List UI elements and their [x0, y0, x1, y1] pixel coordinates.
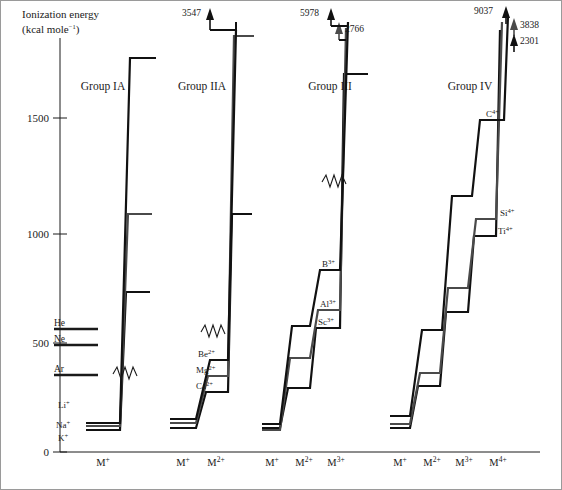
series-label-b: B3+ — [322, 258, 335, 269]
curve-na — [86, 214, 152, 426]
x-label-iii-m2: M2+ — [295, 455, 312, 468]
series-label-al: Al3+ — [320, 298, 336, 309]
curve-ca — [170, 214, 252, 428]
series-label-na: Na+ — [56, 419, 71, 430]
reference-label-ar: Ar — [54, 364, 65, 374]
axis-break-squiggle-ia — [113, 367, 137, 379]
series-label-li: Li+ — [58, 399, 70, 410]
axis-unit-sup: −1 — [69, 23, 76, 30]
group-iia-title: Group IIA — [178, 80, 227, 93]
y-tick-label-1500: 1500 — [27, 112, 50, 124]
series-label-si: Si4+ — [500, 207, 515, 218]
y-tick-label-0: 0 — [44, 446, 50, 458]
offscale-arrow-head-be — [206, 8, 214, 20]
group-iv-title: Group IV — [448, 80, 493, 93]
x-label-iv-m3: M3+ — [455, 455, 472, 468]
series-label-be: Be2+ — [198, 348, 215, 359]
series-label-ti: Ti4+ — [498, 225, 513, 236]
group-ia: Group IA Li+ Na+ K+ M+ — [56, 58, 156, 468]
ionization-energy-chart: Ionization energy (kcal mole−1) 0 500 10… — [0, 0, 562, 490]
curve-li — [86, 58, 156, 423]
group-iii: Group III 5978 2766 B3+ Al3+ Sc3+ M+ M2+… — [262, 8, 368, 468]
offscale-value-9037: 9037 — [474, 6, 493, 16]
series-label-ca: Ca2+ — [196, 380, 213, 391]
x-label-iv-m4: M4+ — [489, 455, 506, 468]
axis-break-squiggle-iia — [201, 325, 225, 337]
offscale-value-5978: 5978 — [300, 8, 319, 18]
x-label-ia-m1: M+ — [96, 455, 110, 468]
group-iia: Group IIA 3547 Be2+ Mg2+ Ca2+ M+ M2+ — [170, 8, 254, 468]
offscale-arrow-head-al — [335, 22, 343, 34]
y-axis-title-line1: Ionization energy — [22, 8, 100, 20]
offscale-arrow-head-c — [502, 6, 510, 18]
x-label-iii-m1: M+ — [265, 455, 279, 468]
series-label-mg: Mg2+ — [196, 364, 216, 375]
x-label-iv-m2: M2+ — [423, 455, 440, 468]
x-label-iia-m2: M2+ — [207, 455, 224, 468]
axis-unit-pre: (kcal mole — [22, 23, 69, 36]
axis-unit-post: ) — [76, 23, 80, 36]
offscale-value-2301: 2301 — [520, 36, 539, 46]
offscale-arrow-head-si — [510, 18, 518, 30]
x-label-iii-m3: M3+ — [327, 455, 344, 468]
curve-sc — [262, 74, 368, 428]
y-axis-title-line2: (kcal mole−1) — [22, 23, 80, 36]
reference-label-he: He — [54, 318, 65, 328]
curve-be-tail — [210, 22, 236, 30]
offscale-arrow-head-ti — [510, 34, 518, 46]
x-label-iv-m1: M+ — [393, 455, 407, 468]
y-tick-label-500: 500 — [33, 337, 50, 349]
y-tick-label-1000: 1000 — [27, 228, 50, 240]
group-ia-title: Group IA — [81, 80, 126, 93]
offscale-arrow-head-b — [327, 8, 335, 20]
offscale-value-3547: 3547 — [182, 8, 201, 18]
group-iv: Group IV 9037 3838 2301 C4+ Si4+ Ti4+ M+… — [390, 6, 539, 468]
x-label-iia-m1: M+ — [176, 455, 190, 468]
curve-c — [390, 16, 508, 416]
series-label-sc: Sc3+ — [318, 316, 334, 327]
reference-label-ne: Ne — [54, 334, 65, 344]
curve-k — [86, 292, 150, 430]
offscale-value-3838: 3838 — [520, 20, 539, 30]
series-label-k: K+ — [58, 432, 69, 443]
